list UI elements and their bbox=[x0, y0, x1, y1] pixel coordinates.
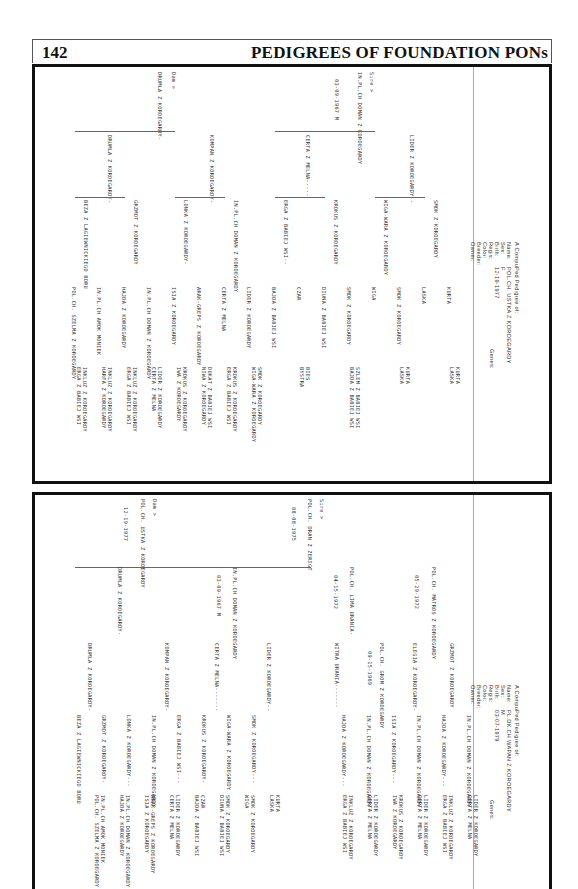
ancestor: DRUMLA Z KOROEGARDY- bbox=[87, 643, 93, 711]
branch-line bbox=[75, 197, 125, 198]
ancestor: LASKA bbox=[449, 367, 455, 384]
ancestor: KOMPAN Z KOROEGARDY- bbox=[164, 643, 170, 711]
divider bbox=[473, 67, 474, 481]
sex-value: F bbox=[500, 267, 506, 271]
ancestor: KURTA bbox=[455, 367, 461, 384]
ancestor: CERTA Z MELNA bbox=[367, 795, 373, 840]
ancestor: CERTA Z MELNA bbox=[221, 287, 227, 332]
birth-label: Birth: bbox=[494, 242, 500, 257]
ancestor: KURTA bbox=[275, 795, 281, 812]
name-value: POL.CH. USTKA Z KOROEGARDY bbox=[506, 267, 512, 364]
ancestor: SMOK Z KOROEGARDY bbox=[257, 367, 263, 425]
ancestor: ERGA Z BABIEJ WSI bbox=[126, 367, 132, 425]
birth-value: 12-19-1977 bbox=[494, 267, 500, 299]
ancestor: LASKA bbox=[421, 287, 427, 304]
ancestor-birth: 09-15-1969 bbox=[367, 651, 373, 685]
ancestor: NIWA Z KOROEGARDY bbox=[201, 367, 207, 425]
ancestor: CZAR bbox=[200, 795, 206, 809]
sire-birth: 08-08-1975 bbox=[291, 507, 297, 541]
pedigree-chart-1: A CompuPed Pedigree of: Name: POL.CH. US… bbox=[32, 64, 552, 484]
ancestor: WIGA bbox=[244, 795, 250, 809]
branch-line bbox=[171, 567, 311, 568]
ancestor: ERGA Z BABIEJ WSI bbox=[342, 795, 348, 853]
sex-value: M bbox=[500, 710, 506, 715]
ancestor: IWA Z KOROEGARDY bbox=[392, 795, 398, 850]
ancestor: GRZMOT Z KOROEGARDY bbox=[133, 200, 139, 265]
branch-line bbox=[375, 197, 425, 198]
ancestor: LIDER Z KOROEGARDY bbox=[473, 795, 479, 857]
genes-label: Genes: bbox=[489, 349, 495, 369]
ancestor: ERGA Z BABIEJ WSI--- bbox=[176, 715, 182, 783]
ancestor: SZLEM Z BABIEJ WSI bbox=[355, 367, 361, 429]
ancestor: GRZMOT Z KOROEGARDY bbox=[449, 643, 455, 708]
ancestor: INKLUZ Z KOROEGARDY bbox=[82, 367, 88, 432]
ancestor: SMOK Z KOROEGARDY--- bbox=[251, 715, 257, 783]
ancestor: WIGA-WARA Z KOROEGARDY bbox=[226, 715, 232, 790]
ancestor: IN.PL.CH DOMAN Z KOROEGARDY bbox=[125, 795, 131, 887]
ancestor: CZAR bbox=[296, 287, 302, 301]
breeder-label: Breeder: bbox=[476, 685, 482, 709]
regis-label: Regis: bbox=[488, 685, 494, 703]
ancestor: POL.CH. SZELMA Z KOROEGARDY bbox=[94, 795, 100, 887]
ancestor: LIDER Z KOROEGARDY-- bbox=[409, 135, 415, 203]
birth-value: 03-07-1979 bbox=[494, 710, 500, 742]
ancestor: GRZMOT Z KOROEGARDY- bbox=[101, 715, 107, 783]
ancestor: WIGA-WARA Z KOROEGARDY bbox=[251, 367, 257, 442]
ancestor: LIDER Z KOROEGARDY bbox=[423, 795, 429, 857]
ancestor: ERGA Z BABIEJ WSI-- bbox=[283, 200, 289, 265]
ancestor: ELEGIA Z KOROEGARDY- bbox=[412, 643, 418, 711]
ancestor: KROKUS Z KOROEGARDY- bbox=[201, 715, 207, 783]
ancestor: HAJDA Z KOROEGARDY bbox=[121, 287, 127, 349]
ancestor: IN.PL.CH AMOK MONIEK bbox=[96, 287, 102, 355]
ancestor: BAJDA Z BABIEJ WSI bbox=[349, 367, 355, 429]
ancestor: LONKA Z KOROEGARDY--- bbox=[126, 715, 132, 787]
ancestor: WITRA URANIA------- bbox=[334, 643, 340, 708]
ancestor: ISIA Z KOROEGARDY bbox=[144, 795, 150, 853]
sire-label: Sire > bbox=[319, 499, 325, 520]
dam-label: Dam > bbox=[152, 499, 158, 516]
name-value: PL.DK.CH WAPAN Z KOROEGARDY bbox=[506, 710, 512, 812]
sire-label: Sire > bbox=[369, 72, 375, 93]
ancestor: LONKA Z KOROEGARDY- bbox=[183, 200, 189, 265]
ancestor: BEZA Z LAGIEWNICKIEGO BORU bbox=[76, 715, 82, 804]
pedigree-heading: A CompuPed Pedigree of: bbox=[514, 685, 520, 757]
ancestor: LIDER Z KOROEGARDY bbox=[373, 795, 379, 857]
pedigree-heading: A CompuPed Pedigree of: bbox=[514, 242, 520, 314]
regis-label: Regis: bbox=[488, 242, 494, 260]
ancestor: POL.CH. GROM Z KOROEGARDY bbox=[379, 643, 385, 729]
name-label: Name: bbox=[506, 685, 512, 703]
branch-line bbox=[175, 197, 225, 198]
ancestor: LASKA bbox=[399, 367, 405, 384]
ancestor: HAJDA Z KOROEGARDY bbox=[119, 795, 125, 857]
genes-label: Genes: bbox=[489, 800, 495, 820]
ancestor: SMOK Z KOROEGARDY bbox=[433, 200, 439, 258]
ancestor: IWA Z KOROEGARDY bbox=[176, 367, 182, 422]
ancestor: CERTA Z MELNA bbox=[169, 795, 175, 840]
ancestor: IN.PL.CH DOMAN Z KOROEGARDY bbox=[233, 200, 239, 292]
sex-label: Sex: bbox=[500, 685, 506, 697]
ancestor: POL.CH. MATROS Z KOROEGARDY bbox=[431, 567, 437, 659]
color-label: Color: bbox=[482, 685, 488, 702]
ancestor-birth: 03-09-1967 M bbox=[216, 575, 222, 616]
name-label: Name: bbox=[506, 242, 512, 260]
ancestor: DUKAT Z BABIEJ WSI bbox=[207, 367, 213, 429]
ancestor: BYSTRA bbox=[299, 367, 305, 388]
ancestor: DIUNA Z BABIEJ WSI bbox=[219, 795, 225, 857]
breeder-label: Breeder: bbox=[476, 242, 482, 266]
ancestor: CERTA Z MELNA------- bbox=[214, 643, 220, 711]
sire-name: IN.PL.CH DOMAN Z KOROEGARDY bbox=[357, 72, 363, 164]
ancestor-birth: 05-29-1972 bbox=[414, 575, 420, 609]
ancestor: DRUMLA Z KOROEGARDY- bbox=[117, 567, 123, 635]
ancestor: LIDER Z KOROEGARDY bbox=[175, 795, 181, 857]
ancestor: IN.PL.CH DOMAN Z KOROEGARDY bbox=[146, 287, 152, 379]
ancestor: KURTA bbox=[446, 287, 452, 304]
ancestor: CERTA Z MELNA bbox=[151, 367, 157, 412]
ancestor: SMOK Z KOROEGARDY bbox=[396, 287, 402, 345]
ancestor: BIES bbox=[305, 367, 311, 381]
ancestor: IN.PL.CH DOMAN Z KOROEGARDY bbox=[151, 715, 157, 807]
ancestor: IN.PL.CH DOMAN Z KOROEGARDY bbox=[366, 715, 372, 807]
ancestor: HAJDA Z KOROEGARDY--- bbox=[441, 715, 447, 787]
ancestor: LIDER Z KOROEGARDY bbox=[157, 367, 163, 429]
ancestor: IN.PL.CH DOMAN Z KOROEGARDY bbox=[466, 715, 472, 807]
pedigree-chart-2: A CompuPed Pedigree of: Name: PL.DK.CH W… bbox=[32, 492, 552, 889]
